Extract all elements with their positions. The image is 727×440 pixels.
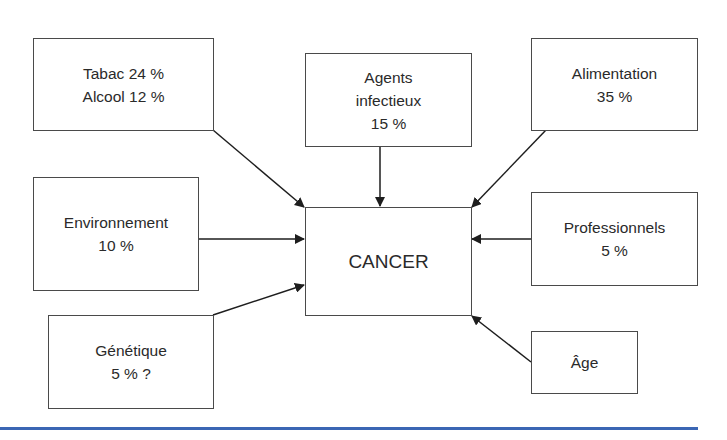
- factor-box-alimentation: Alimentation 35 %: [531, 38, 698, 131]
- factor-box-tabac-alcool: Tabac 24 % Alcool 12 %: [33, 38, 214, 131]
- arrow-genetique-to-cancer: [213, 285, 304, 315]
- factor-label-line: Environnement: [64, 211, 168, 234]
- factor-label-line: 5 %: [601, 239, 628, 262]
- factor-label-line: Génétique: [95, 339, 167, 362]
- factor-label-line: 35 %: [597, 85, 632, 108]
- factor-label-line: 5 % ?: [111, 362, 151, 385]
- factor-label-line: Âge: [571, 351, 599, 374]
- factor-label-line: Tabac 24 %: [83, 62, 164, 85]
- factor-label-line: infectieux: [356, 89, 421, 112]
- cancer-center-box: CANCER: [305, 207, 472, 316]
- arrow-age-to-cancer: [472, 316, 531, 362]
- factor-box-environnement: Environnement 10 %: [33, 177, 199, 291]
- arrow-tabac-to-cancer: [213, 130, 304, 207]
- factor-box-agents-infectieux: Agents infectieux 15 %: [305, 53, 472, 147]
- factor-label-line: Professionnels: [564, 216, 666, 239]
- factor-label-line: 10 %: [98, 234, 133, 257]
- factor-box-age: Âge: [531, 331, 638, 394]
- factor-box-genetique: Génétique 5 % ?: [48, 315, 214, 409]
- factor-label-line: Agents: [364, 66, 412, 89]
- factor-label-line: Alcool 12 %: [83, 85, 165, 108]
- factor-label-line: Alimentation: [572, 62, 657, 85]
- factor-box-professionnels: Professionnels 5 %: [531, 192, 698, 286]
- bottom-rule-divider: [0, 427, 698, 430]
- factor-label-line: 15 %: [371, 112, 406, 135]
- center-label: CANCER: [348, 250, 428, 273]
